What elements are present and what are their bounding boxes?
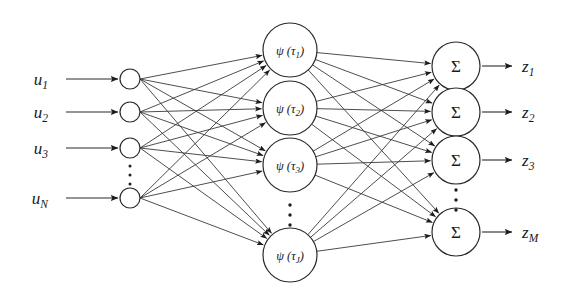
- edge-hidden-output: [313, 79, 434, 151]
- output-labels-group: z1z2z3zM: [521, 57, 540, 244]
- edge-hidden-output: [316, 72, 431, 101]
- output-ellipsis-dot-1: [454, 188, 457, 191]
- hidden-nodes-group: ψ (τ1)ψ (τ2)ψ (τ3)ψ (τJ): [263, 23, 317, 282]
- edge-hidden-output: [308, 85, 439, 235]
- output-label-1: z1: [521, 57, 534, 78]
- input-ellipsis-dot-1: [129, 165, 132, 168]
- output-ellipsis-dot-3: [454, 208, 457, 211]
- edges-hidden-to-output: [308, 53, 439, 252]
- edge-input-hidden: [140, 148, 267, 238]
- edge-input-hidden: [140, 79, 265, 151]
- edge-hidden-output: [315, 175, 432, 222]
- input-label-4: uN: [32, 189, 50, 210]
- edges-input-to-hidden: [140, 55, 272, 244]
- hidden-ellipsis: [288, 203, 291, 226]
- output-node-symbol-3: Σ: [451, 151, 461, 170]
- hidden-node-label-4: ψ (τJ): [276, 249, 304, 265]
- input-label-1: u1: [34, 70, 48, 91]
- input-ellipsis: [129, 165, 132, 186]
- hidden-ellipsis-dot-3: [288, 223, 291, 226]
- edge-input-hidden: [140, 79, 262, 103]
- input-label-3: u3: [34, 139, 49, 160]
- input-node-2: [120, 102, 140, 122]
- output-label-2: z2: [521, 103, 535, 124]
- edge-hidden-output: [317, 53, 431, 64]
- hidden-ellipsis-dot-2: [288, 213, 291, 216]
- edge-hidden-output: [316, 120, 432, 157]
- hidden-node-label-1: ψ (τ1): [276, 44, 304, 60]
- edge-input-hidden: [140, 79, 272, 233]
- hidden-ellipsis-dot-1: [288, 203, 291, 206]
- edge-input-hidden: [140, 112, 263, 156]
- input-ellipsis-dot-2: [129, 174, 132, 177]
- edge-hidden-output: [317, 235, 431, 251]
- edge-input-hidden: [140, 61, 264, 112]
- input-ellipsis-dot-3: [129, 183, 132, 186]
- output-nodes-group: ΣΣΣΣ: [432, 42, 480, 256]
- output-label-3: z3: [521, 151, 535, 172]
- output-node-symbol-4: Σ: [451, 223, 461, 242]
- output-node-symbol-2: Σ: [451, 103, 461, 122]
- edge-hidden-output: [317, 109, 431, 112]
- input-node-1: [120, 69, 140, 89]
- neural-network-diagram: u1u2u3uN ψ (τ1)ψ (τ2)ψ (τ3)ψ (τJ) ΣΣΣΣ z…: [0, 0, 567, 297]
- output-arrows-group: [482, 66, 512, 232]
- edge-hidden-output: [310, 129, 436, 238]
- edge-input-hidden: [140, 198, 263, 245]
- input-node-4: [120, 188, 140, 208]
- output-ellipsis-dot-2: [454, 198, 457, 201]
- edge-input-hidden: [140, 171, 262, 198]
- edge-hidden-output: [317, 161, 431, 164]
- edge-input-hidden: [140, 70, 270, 198]
- edge-hidden-output: [316, 116, 432, 152]
- input-nodes-group: [120, 69, 140, 208]
- hidden-node-label-3: ψ (τ3): [276, 159, 304, 175]
- output-node-symbol-1: Σ: [451, 57, 461, 76]
- edge-input-hidden: [140, 55, 262, 79]
- hidden-node-label-2: ψ (τ2): [276, 102, 304, 118]
- input-arrows-group: [66, 79, 118, 198]
- output-label-4: zM: [521, 223, 540, 244]
- input-label-2: u2: [34, 103, 49, 124]
- edge-hidden-output: [308, 70, 439, 213]
- edge-input-hidden: [140, 115, 262, 148]
- edge-input-hidden: [140, 109, 262, 112]
- input-node-3: [120, 138, 140, 158]
- neural-network-svg: u1u2u3uN ψ (τ1)ψ (τ2)ψ (τ3)ψ (τJ) ΣΣΣΣ z…: [0, 0, 567, 297]
- input-labels-group: u1u2u3uN: [32, 70, 50, 210]
